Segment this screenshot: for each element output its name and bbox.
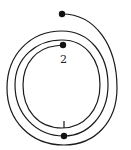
point-1-dot [61,133,67,139]
start-point-dot [59,11,65,17]
point-2-dot [60,42,66,48]
spiral-diagram: 2 1 [0,0,131,150]
spiral-inner-path [15,40,100,136]
label-2: 2 [60,53,67,66]
